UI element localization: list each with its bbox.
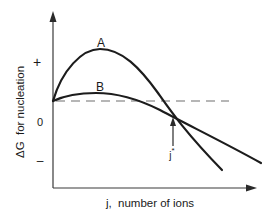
y-tick-minus: –: [37, 154, 44, 168]
curve-a-label: A: [97, 36, 105, 50]
nucleation-free-energy-diagram: A B j* + 0 – ΔG for nucleation j, number…: [0, 0, 274, 212]
critical-size-marker: j*: [168, 117, 176, 161]
curve-a: [53, 49, 222, 170]
y-tick-plus: +: [33, 54, 41, 70]
critical-size-label: j*: [168, 146, 174, 161]
x-axis: [53, 185, 257, 192]
curve-b-label: B: [96, 80, 104, 94]
curve-b: [53, 93, 261, 163]
y-tick-zero: 0: [37, 116, 43, 128]
x-axis-arrowhead-icon: [246, 185, 257, 192]
y-axis-arrowhead-icon: [50, 11, 57, 22]
y-axis-label: ΔG for nucleation: [14, 66, 26, 158]
x-axis-label: j, number of ions: [105, 197, 194, 209]
